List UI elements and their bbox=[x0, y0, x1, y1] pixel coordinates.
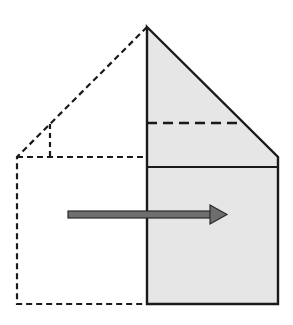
dashed-original-outline bbox=[17, 27, 147, 304]
arrow-shaft bbox=[68, 211, 211, 218]
translation-diagram bbox=[0, 0, 293, 325]
solid-translated-shape bbox=[147, 27, 278, 304]
